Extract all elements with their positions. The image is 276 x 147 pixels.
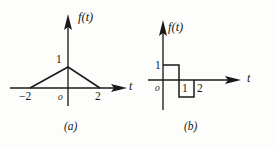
panel-a-origin-label: o	[58, 93, 63, 103]
panel-b-caption: (b)	[184, 121, 197, 133]
figure-panel-b: f(t) 1 o 1 2 t (b)	[140, 0, 276, 147]
panel-b-plot	[140, 0, 276, 147]
panel-b-x-axis-label: t	[247, 72, 250, 84]
panel-b-y-tick-1: 1	[155, 60, 161, 72]
figure-panel-a: f(t) 1 −2 o 2 t (a)	[0, 0, 140, 147]
panel-a-caption: (a)	[64, 121, 77, 133]
panel-a-y-tick-1: 1	[56, 54, 62, 66]
textbook-figure-pair: f(t) 1 −2 o 2 t (a) f(t) 1 o 1 2 t (b)	[0, 0, 276, 147]
panel-a-function-label: f(t)	[78, 11, 93, 24]
panel-b-square-pulse	[163, 65, 194, 97]
panel-a-x-axis-label: t	[129, 80, 132, 92]
panel-a-x-tick-neg2: −2	[19, 91, 31, 103]
panel-b-origin-label: o	[155, 84, 160, 94]
panel-b-x-tick-1: 1	[182, 83, 188, 95]
panel-a-x-tick-2: 2	[95, 91, 101, 103]
panel-b-x-tick-2: 2	[197, 83, 203, 95]
panel-b-function-label: f(t)	[168, 21, 183, 34]
panel-a-triangular-pulse	[30, 67, 100, 88]
